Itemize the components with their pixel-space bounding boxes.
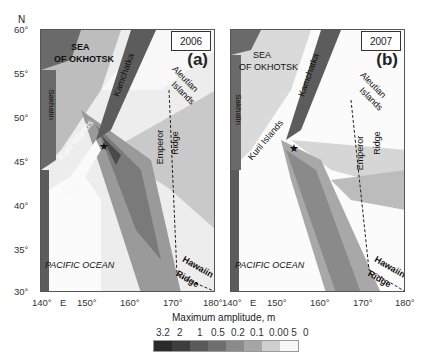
colorbar-swatch <box>226 341 244 351</box>
panel-label: (b) <box>376 50 398 70</box>
place-label-ridge: Ridge <box>170 131 180 155</box>
map-panel-2006: ★ 2006 (a) SEA OF OKHOTSK Kamchatka Aleu… <box>40 29 215 292</box>
colorbar-label: 0.1 <box>250 327 264 338</box>
x-axis-label: Maximum amplitude, m <box>172 312 275 323</box>
x-tick: 180° <box>203 297 223 308</box>
place-label-pacific: PACIFIC OCEAN <box>235 260 304 270</box>
place-label-ridge: Ridge <box>372 131 382 155</box>
x-tick: 150° <box>77 297 97 308</box>
colorbar-label: 1 <box>197 327 203 338</box>
colorbar-label: 0.2 <box>231 327 245 338</box>
x-tick: 150° <box>267 297 287 308</box>
place-label-sea: SEA <box>71 42 90 52</box>
y-tick: 30° <box>14 286 28 297</box>
year-label: 2007 <box>361 31 401 51</box>
y-tick: 55° <box>14 68 28 79</box>
colorbar-swatch <box>262 341 280 351</box>
y-tick: 45° <box>14 156 28 167</box>
place-label-sakhalin: Sakhalin <box>47 89 56 120</box>
map-panel-2007: ★ 2007 (b) SEA OF OKHOTSK Kamchatka Aleu… <box>230 29 405 292</box>
panel-label: (a) <box>187 50 208 70</box>
x-tick: 180° <box>395 297 415 308</box>
colorbar-swatch <box>172 341 190 351</box>
colorbar-swatch <box>190 341 208 351</box>
colorbar-swatch <box>154 341 172 351</box>
svg-text:★: ★ <box>99 140 109 152</box>
y-tick: 40° <box>14 200 28 211</box>
colorbar-label: 0 <box>303 327 309 338</box>
place-label-sakhalin: Sakhalin <box>234 94 243 125</box>
place-label-okhotsk: OF OKHOTSK <box>239 62 298 72</box>
place-label-emperor: Emperor <box>155 130 165 165</box>
year-label: 2006 <box>171 31 211 51</box>
y-tick: 50° <box>14 112 28 123</box>
x-tick: 160° <box>120 297 140 308</box>
place-label-pacific: PACIFIC OCEAN <box>45 260 114 270</box>
x-tick: 170° <box>163 297 183 308</box>
x-tick: 160° <box>310 297 330 308</box>
colorbar-label: 0.5 <box>211 327 225 338</box>
x-tick: 140° <box>222 297 242 308</box>
y-tick: 35° <box>14 244 28 255</box>
x-tick: E <box>60 297 66 308</box>
colorbar-label: 0.00 5 <box>269 327 297 338</box>
colorbar-label: 2 <box>177 327 183 338</box>
colorbar-swatch <box>244 341 262 351</box>
colorbar-swatch <box>280 341 298 351</box>
colorbar <box>153 340 299 352</box>
y-tick: 60° <box>14 24 28 35</box>
colorbar-label: 3.2 <box>156 327 170 338</box>
x-tick: E <box>250 297 256 308</box>
place-label-sea: SEA <box>253 50 271 60</box>
place-label-emperor: Emperor <box>355 136 365 171</box>
colorbar-swatch <box>208 341 226 351</box>
place-label-okhotsk: OF OKHOTSK <box>54 54 114 64</box>
x-tick: 170° <box>353 297 373 308</box>
x-tick: 140° <box>32 297 52 308</box>
svg-text:★: ★ <box>289 142 299 154</box>
